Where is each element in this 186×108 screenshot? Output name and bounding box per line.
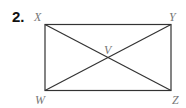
- vertex-label-w: W: [35, 93, 45, 108]
- vertex-label-z: Z: [172, 93, 179, 108]
- vertex-label-x: X: [34, 10, 41, 25]
- rectangle-diagram: [0, 0, 186, 108]
- vertex-label-y: Y: [169, 10, 176, 25]
- intersection-label-v: V: [104, 43, 111, 58]
